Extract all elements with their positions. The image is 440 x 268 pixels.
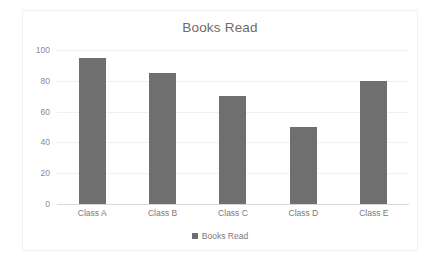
bar-slot [127,50,197,204]
bar-slot [268,50,338,204]
bar-class-e[interactable] [360,81,387,204]
x-tick-label: Class E [359,208,388,218]
bar-slot [198,50,268,204]
bar-class-a[interactable] [79,58,106,204]
y-tick-label: 60 [41,107,50,117]
y-tick-label: 0 [45,199,50,209]
y-tick-label: 20 [41,168,50,178]
chart-title: Books Read [22,20,418,35]
x-tick-label: Class A [78,208,107,218]
x-axis-baseline: 0 [57,204,409,205]
bar-class-c[interactable] [219,96,246,204]
bar-chart-figure: Books Read 020406080100 Class AClass BCl… [0,0,440,268]
x-tick-label: Class D [289,208,319,218]
legend-swatch-icon [192,233,198,239]
y-tick-label: 40 [41,137,50,147]
y-tick-label: 100 [36,45,50,55]
plot-area: 020406080100 [57,50,409,204]
chart-legend: Books Read [22,231,418,241]
bars-layer [57,50,409,204]
legend-entry-label: Books Read [202,231,248,241]
bar-slot [57,50,127,204]
bar-class-d[interactable] [290,127,317,204]
y-tick-label: 80 [41,76,50,86]
x-tick-label: Class B [148,208,177,218]
x-axis-labels: Class AClass BClass CClass DClass E [57,208,409,224]
bar-slot [339,50,409,204]
bar-class-b[interactable] [149,73,176,204]
x-tick-label: Class C [218,208,248,218]
